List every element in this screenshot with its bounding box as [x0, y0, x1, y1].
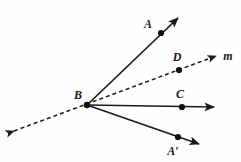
- ray-b-to-a-prime: [87, 105, 199, 144]
- label-a-prime: A′: [166, 144, 178, 158]
- label-d: D: [172, 50, 182, 64]
- label-b: B: [73, 88, 82, 102]
- label-line-m: m: [223, 49, 232, 63]
- ray-b-to-c: [87, 105, 214, 107]
- geometry-diagram: A D C A′ B m: [0, 0, 241, 162]
- geometry-canvas: A D C A′ B m: [0, 0, 241, 162]
- dashed-line-m: [14, 56, 216, 131]
- point-c: [179, 104, 185, 110]
- point-a: [158, 30, 164, 36]
- point-a-prime: [175, 134, 181, 140]
- ray-b-to-a: [87, 18, 178, 105]
- point-d: [176, 67, 182, 73]
- label-c: C: [176, 87, 185, 101]
- point-b: [84, 102, 90, 108]
- label-a: A: [143, 17, 152, 31]
